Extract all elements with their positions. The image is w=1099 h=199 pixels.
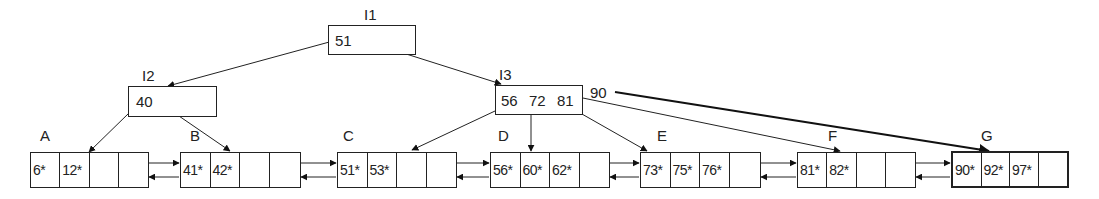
leaf-entry: 75* (671, 153, 701, 187)
key-72: 72 (529, 93, 546, 108)
leaf-label-e: E (657, 128, 667, 143)
leaf-entry-empty (270, 153, 300, 187)
leaf-node-a: 6* 12* (30, 152, 149, 188)
leaf-entry: 12* (60, 153, 89, 187)
key-81: 81 (557, 93, 574, 108)
internal-node-i1: 51 (328, 25, 416, 55)
internal-node-i2: 40 (128, 86, 217, 117)
edge-i3-f (578, 97, 840, 151)
node-label-i2: I2 (142, 68, 155, 83)
key-56: 56 (501, 93, 518, 108)
leaf-node-c: 51* 53* (337, 152, 457, 188)
leaf-entry: 81* (798, 153, 827, 187)
overflow-key-90: 90 (590, 85, 607, 100)
leaf-entry: 76* (700, 153, 730, 187)
leaf-entry: 82* (827, 153, 856, 187)
leaf-entry: 41* (181, 153, 211, 187)
leaf-node-d: 56* 60* 62* (490, 152, 610, 188)
leaf-entry: 90* (953, 153, 982, 186)
leaf-entry-empty (119, 153, 148, 187)
leaf-entry-empty (397, 153, 427, 187)
edge-i3-g (615, 92, 989, 151)
leaf-label-b: B (190, 128, 200, 143)
leaf-node-f: 81* 82* (797, 152, 916, 188)
leaf-label-f: F (828, 128, 837, 143)
node-label-i3: I3 (499, 67, 512, 82)
leaf-entry: 51* (338, 153, 368, 187)
leaf-entry-empty (240, 153, 270, 187)
leaf-node-b: 41* 42* (180, 152, 301, 188)
leaf-entry-empty (730, 153, 760, 187)
leaf-entry: 56* (491, 153, 521, 187)
leaf-entry-empty (1039, 153, 1067, 186)
key-51: 51 (335, 33, 352, 48)
leaf-entry: 97* (1010, 153, 1039, 186)
leaf-label-d: D (498, 128, 509, 143)
leaf-entry: 73* (641, 153, 671, 187)
leaf-entry: 92* (982, 153, 1011, 186)
leaf-node-g: 90* 92* 97* (951, 151, 1069, 188)
node-label-i1: I1 (364, 7, 377, 22)
key-40: 40 (136, 94, 153, 109)
leaf-entry-empty (580, 153, 610, 187)
leaf-entry-empty (427, 153, 457, 187)
leaf-entry: 62* (550, 153, 580, 187)
leaf-entry: 6* (31, 153, 60, 187)
leaf-label-c: C (343, 128, 354, 143)
edge-i2-a (89, 113, 129, 152)
edge-i3-c (412, 111, 495, 150)
internal-node-i3: 56 72 81 (495, 85, 583, 115)
leaf-node-e: 73* 75* 76* (640, 152, 761, 188)
leaf-entry: 53* (368, 153, 398, 187)
leaf-entry-empty (857, 153, 886, 187)
leaf-entry-empty (886, 153, 915, 187)
edge-i1-i2 (168, 41, 333, 86)
leaf-entry-empty (90, 153, 119, 187)
b-plus-tree-diagram: I1 51 I2 40 I3 56 72 81 90 A B C D E F G… (0, 0, 1099, 199)
leaf-label-g: G (981, 128, 993, 143)
leaf-label-a: A (40, 128, 50, 143)
leaf-entry: 42* (211, 153, 241, 187)
leaf-entry: 60* (521, 153, 551, 187)
